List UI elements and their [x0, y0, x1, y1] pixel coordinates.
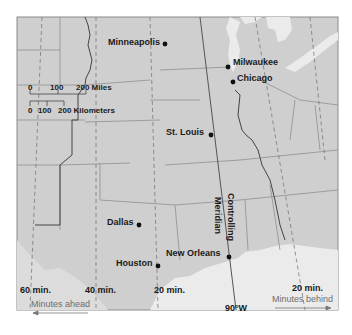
city-label-milwaukee: Milwaukee [233, 57, 278, 67]
label-20-min-west: 20 min. [154, 285, 185, 295]
scale-miles-200: 200 Miles [76, 83, 112, 93]
city-label-st-louis: St. Louis [166, 127, 204, 137]
scale-miles-0: 0 [28, 83, 32, 93]
longitude-label-90w: 90°W [225, 303, 247, 313]
meridian-label-controlling: Controlling [226, 193, 236, 241]
label-minutes-behind: Minutes behind [272, 294, 333, 304]
scale-km-0: 0 [28, 106, 32, 116]
city-label-chicago: Chicago [237, 73, 273, 83]
label-40-min: 40 min. [85, 285, 116, 295]
city-label-new-orleans: New Orleans [166, 248, 221, 258]
label-minutes-ahead: Minutes ahead [31, 299, 90, 309]
city-label-minneapolis: Minneapolis [108, 37, 160, 47]
city-label-dallas: Dallas [107, 217, 134, 227]
label-60-min: 60 min. [20, 285, 51, 295]
scale-km-100: 100 [38, 106, 51, 116]
city-label-houston: Houston [116, 258, 153, 268]
scale-miles-100: 100 [50, 83, 63, 93]
meridian-label-meridian: Meridian [213, 197, 223, 234]
label-20-min-east: 20 min. [292, 283, 323, 293]
scale-km-200: 200 Kilometers [58, 106, 115, 116]
